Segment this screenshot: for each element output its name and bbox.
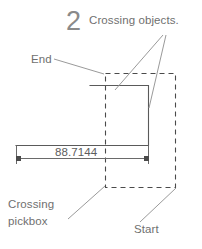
- crossing-objects-label: Crossing objects.: [89, 14, 179, 26]
- start-label: Start: [134, 223, 159, 235]
- crossing-pickbox-label-line2: pickbox: [8, 213, 54, 230]
- crossing-pickbox-label-line1: Crossing: [8, 196, 54, 213]
- crossing-pickbox-rect: [106, 74, 176, 188]
- dimension-arrow-tick-right-icon: [144, 156, 149, 161]
- crossing-pickbox-label: Crossing pickbox: [8, 196, 54, 230]
- leader-line-end: [54, 59, 104, 74]
- leader-line-crossing-objects-right: [149, 35, 166, 108]
- geometry-polyline: [16, 86, 149, 146]
- end-label: End: [31, 53, 52, 65]
- leader-line-start: [140, 188, 176, 222]
- leader-line-crossing-pickbox: [68, 186, 105, 219]
- dimension-value: 88.7144: [55, 146, 97, 158]
- crossing-objects-figure: 2 Crossing objects. End 88.7144 Crossing…: [0, 0, 202, 249]
- dimension-arrow-tick-left-icon: [16, 156, 21, 161]
- step-number: 2: [66, 8, 81, 35]
- leader-line-crossing-objects-top: [115, 35, 163, 90]
